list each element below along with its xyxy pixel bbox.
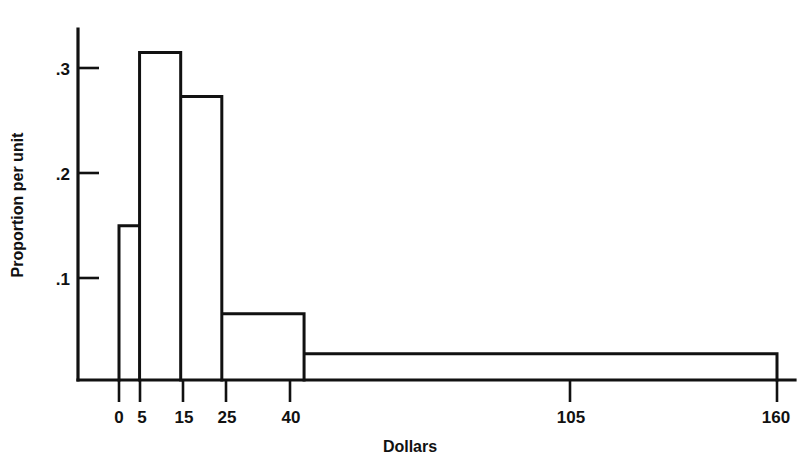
histogram-figure: .3 .2 .1 0 5 15 25 40 105 160 Dollars bbox=[0, 0, 805, 464]
axes-group bbox=[78, 29, 795, 380]
x-tick-label-5: 5 bbox=[137, 408, 146, 427]
y-tick-label-03: .3 bbox=[56, 60, 70, 79]
bars-group bbox=[119, 52, 777, 380]
histogram-outline bbox=[119, 52, 777, 380]
x-tick-label-25: 25 bbox=[218, 408, 237, 427]
y-axis-title: Proportion per unit bbox=[9, 132, 26, 278]
x-tick-label-160: 160 bbox=[762, 408, 790, 427]
y-tick-label-02: .2 bbox=[56, 165, 70, 184]
x-tick-label-0: 0 bbox=[114, 408, 123, 427]
x-tick-label-40: 40 bbox=[282, 408, 301, 427]
x-tick-group: 0 5 15 25 40 105 160 bbox=[114, 380, 790, 427]
y-tick-label-01: .1 bbox=[56, 270, 70, 289]
x-axis-title: Dollars bbox=[383, 438, 437, 455]
x-tick-label-105: 105 bbox=[557, 408, 585, 427]
histogram-canvas: .3 .2 .1 0 5 15 25 40 105 160 Dollars bbox=[0, 0, 805, 464]
x-tick-label-15: 15 bbox=[175, 408, 194, 427]
